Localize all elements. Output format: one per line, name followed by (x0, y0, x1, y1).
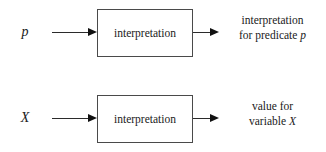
output-arrow-variable (193, 114, 219, 123)
diagram-row-variable: X interpretation value for variable X (0, 90, 326, 150)
diagram-row-predicate: p interpretation interpretation for pred… (0, 4, 326, 64)
process-box-variable: interpretation (97, 95, 193, 143)
output-caption-line-2-prefix: variable (249, 115, 286, 127)
arrow-shaft (52, 118, 89, 119)
arrow-right-icon (210, 28, 219, 36)
output-caption-line-1: interpretation (219, 13, 326, 28)
arrow-shaft (193, 118, 211, 119)
process-box-label: interpretation (114, 27, 176, 40)
output-caption-line-2-prefix: for predicate (239, 29, 297, 41)
output-caption-line-2-symbol: X (289, 115, 296, 127)
arrow-right-icon (88, 114, 97, 122)
arrow-shaft (52, 32, 89, 33)
input-symbol-variable: X (8, 109, 42, 127)
interpretation-diagram: p interpretation interpretation for pred… (0, 0, 326, 152)
output-caption-predicate: interpretation for predicate p (219, 13, 326, 43)
input-arrow-predicate (52, 28, 97, 37)
output-caption-variable: value for variable X (219, 99, 326, 129)
output-caption-line-2: variable X (219, 114, 326, 129)
input-symbol-predicate: p (8, 23, 42, 41)
arrow-shaft (193, 32, 211, 33)
process-box-predicate: interpretation (97, 9, 193, 57)
output-caption-line-1: value for (219, 99, 326, 114)
input-arrow-variable (52, 114, 97, 123)
output-arrow-predicate (193, 28, 219, 37)
output-caption-line-2: for predicate p (219, 28, 326, 43)
output-caption-line-2-symbol: p (300, 29, 306, 41)
process-box-label: interpretation (114, 113, 176, 126)
arrow-right-icon (210, 114, 219, 122)
arrow-right-icon (88, 28, 97, 36)
